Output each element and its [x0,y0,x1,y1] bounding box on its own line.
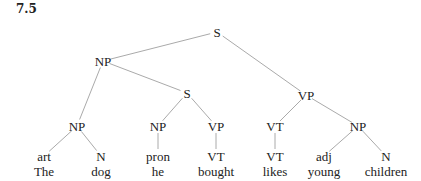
tree-edge [110,63,181,90]
tree-node-np-obj: NP [350,120,367,133]
tree-node-vt-likes: VT [266,150,283,163]
tree-node-np-he: NP [150,120,167,133]
sentence-word: young [308,165,341,178]
tree-edge [363,131,381,151]
sentence-word: bought [198,165,234,178]
sentence-word: he [152,165,164,178]
tree-node-n-children: N [381,150,390,163]
tree-node-vp-main: VP [298,89,315,102]
tree-edge [163,98,183,120]
tree-node-vp-rel: VP [208,120,225,133]
tree-node-pron: pron [146,150,170,163]
tree-edge [110,34,210,60]
sentence-word: likes [263,165,288,178]
tree-edge [192,98,212,120]
sentence-word: The [34,165,54,178]
tree-node-np-det: NP [69,120,86,133]
sentence-word: dog [91,165,111,178]
tree-node-vt-bought: VT [207,150,224,163]
tree-edge [80,67,101,119]
tree-node-s-root: S [213,26,220,39]
tree-edge [312,99,352,123]
tree-edge [49,131,72,152]
tree-node-n-dog: N [96,150,105,163]
tree-edge [329,131,353,152]
tree-node-vt-main: VT [266,120,283,133]
tree-edge [223,36,301,91]
tree-node-adj: adj [316,150,332,163]
tree-node-np-subj: NP [95,55,112,68]
tree-node-s-rel: S [183,87,190,100]
tree-edge [81,131,96,150]
sentence-word: children [365,165,408,178]
tree-node-art: art [37,150,51,163]
